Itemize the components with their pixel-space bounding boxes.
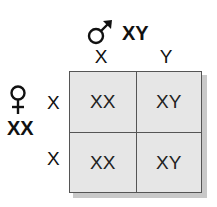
punnett-cell: XY (136, 132, 202, 192)
punnett-cell: XY (136, 72, 202, 132)
female-allele-1: X (47, 92, 60, 114)
female-symbol-icon (8, 84, 28, 116)
male-genotype: XY (122, 22, 149, 45)
punnett-cell: XX (70, 132, 136, 192)
punnett-cell: XX (70, 72, 136, 132)
male-allele-1: X (81, 46, 121, 68)
male-symbol-icon (86, 18, 114, 46)
female-genotype: XX (7, 117, 34, 140)
punnett-square: XX XY XX XY (69, 71, 202, 193)
female-allele-2: X (47, 148, 60, 170)
male-allele-2: Y (146, 46, 186, 68)
